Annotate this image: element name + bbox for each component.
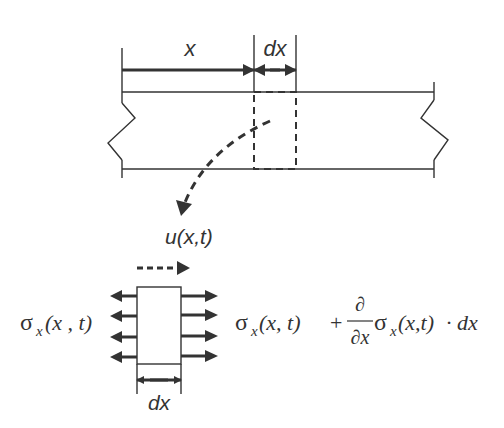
svg-text:(x,t): (x,t) (398, 310, 434, 335)
x-label: x (184, 36, 197, 61)
svg-text:· dx: · dx (446, 310, 478, 335)
displacement-label: u(x,t) (165, 225, 213, 248)
svg-text:(x, t): (x, t) (259, 310, 301, 335)
pointer-arrowhead-icon (176, 200, 192, 216)
dashed-element (254, 92, 296, 169)
svg-text:(x , t): (x , t) (45, 310, 92, 335)
beam (108, 48, 448, 178)
element-box (137, 287, 181, 364)
left-break-icon (108, 103, 135, 160)
svg-text:σ: σ (20, 309, 33, 335)
dx-label-top: dx (263, 36, 287, 61)
svg-text:σ: σ (235, 309, 248, 335)
svg-text:x: x (389, 323, 397, 339)
svg-text:+: + (330, 310, 342, 335)
right-break-icon (421, 100, 448, 160)
bottom-dx-dimension (137, 364, 181, 394)
zoom-pointer-arrow (184, 121, 270, 205)
right-stress-arrows (181, 290, 218, 362)
right-stress-label: σ x (x, t) + ∂ ∂x σ x (x,t) · dx (235, 293, 478, 348)
svg-text:x: x (35, 323, 43, 339)
displacement-arrowhead-icon (177, 261, 190, 275)
svg-text:∂: ∂ (355, 293, 365, 315)
svg-text:∂x: ∂x (351, 326, 370, 348)
dx-label-bottom: dx (148, 391, 172, 414)
left-stress-arrows (110, 290, 137, 363)
svg-text:x: x (250, 323, 258, 339)
svg-text:σ: σ (374, 309, 387, 335)
wave-element-diagram: x dx u(x,t) dx σ x (x , t) σ x (0, 0, 504, 428)
left-stress-label: σ x (x , t) (20, 309, 92, 339)
